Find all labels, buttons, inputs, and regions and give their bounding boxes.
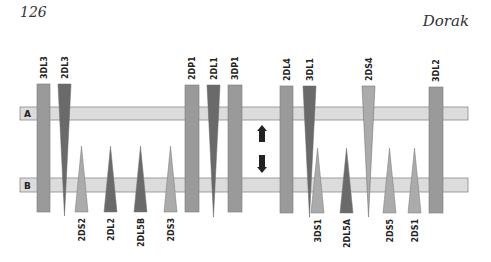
gene-label: 2DL4: [283, 58, 292, 81]
haplotype-a-bar: A: [20, 107, 468, 120]
gene-3ds1: 3DS1: [311, 148, 324, 243]
gene-3dp1: 3DP1: [228, 56, 242, 212]
gene-2dl5a: 2DL5A: [340, 148, 353, 248]
gene-2ds2: 2DS2: [75, 146, 88, 242]
haplotype-label: B: [24, 181, 31, 191]
gene-label: 2DS4: [365, 57, 374, 81]
gene-label: 2DL3: [61, 56, 70, 79]
gene-label: 2DS2: [78, 218, 87, 242]
gene-2dl2: 2DL2: [104, 146, 117, 241]
kir-haplotype-diagram: AB3DL32DL32DS22DL22DL5B2DS32DP12DL13DP12…: [0, 0, 491, 262]
arrow-up-icon: [257, 125, 267, 142]
gene-2ds5: 2DS5: [383, 148, 396, 243]
gene-2ds1: 2DS1: [408, 148, 421, 243]
gene-2ds4: 2DS4: [362, 57, 375, 217]
gene-label: 3DL3: [40, 56, 49, 79]
gene-label: 2DP1: [188, 56, 197, 80]
haplotype-label: A: [24, 109, 31, 119]
gene-2dl1: 2DL1: [207, 57, 220, 217]
gene-label: 2DS5: [386, 219, 395, 243]
arrow-down-icon: [257, 155, 267, 173]
gene-2dl5b: 2DL5B: [134, 146, 147, 247]
gene-label: 2DL1: [210, 57, 219, 80]
gene-3dl2: 3DL2: [429, 59, 443, 213]
gene-label: 2DS3: [167, 218, 176, 242]
gene-2ds3: 2DS3: [164, 146, 177, 242]
gene-3dl3: 3DL3: [37, 56, 50, 212]
gene-2dl4: 2DL4: [280, 58, 293, 213]
gene-label: 3DP1: [231, 56, 240, 80]
gene-2dp1: 2DP1: [185, 56, 199, 212]
gene-label: 3DL1: [306, 58, 315, 81]
gene-label: 3DS1: [314, 219, 323, 243]
gene-label: 3DL2: [432, 59, 441, 82]
gene-label: 2DL2: [107, 218, 116, 241]
gene-label: 2DS1: [411, 219, 420, 243]
gene-label: 2DL5A: [343, 218, 352, 248]
gene-label: 2DL5B: [137, 218, 146, 247]
haplotype-b-bar: B: [20, 178, 468, 192]
